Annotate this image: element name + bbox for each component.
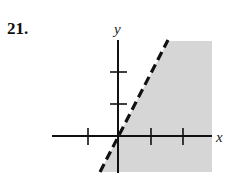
y-axis-label: y	[112, 21, 121, 37]
shaded-region	[100, 41, 212, 172]
x-axis-label: x	[215, 129, 223, 145]
inequality-graph: x y	[0, 0, 242, 183]
